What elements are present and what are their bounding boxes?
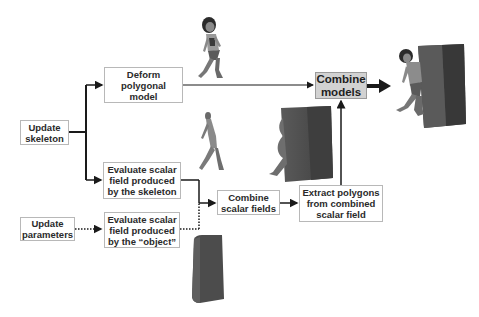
- update-parameters-node: Update parameters: [20, 217, 75, 241]
- skeleton-figure-image: [195, 112, 225, 174]
- eval-object-field-node: Evaluate scalar field produced by the “o…: [104, 212, 180, 248]
- extract-polygons-label: Extract polygons from combined scalar fi…: [302, 187, 379, 220]
- combine-scalar-fields-label: Combine scalar fields: [221, 192, 276, 214]
- deformed-block-image: [267, 102, 339, 184]
- eval-skeleton-field-label: Evaluate scalar field produced by the sk…: [107, 164, 176, 197]
- result-character-block-image: [392, 38, 472, 130]
- walking-character-image: [195, 16, 231, 82]
- deform-model-node: Deform polygonal model: [104, 67, 183, 103]
- deform-model-label: Deform polygonal model: [121, 69, 166, 102]
- extract-polygons-node: Extract polygons from combined scalar fi…: [299, 185, 383, 222]
- update-parameters-label: Update parameters: [22, 218, 73, 240]
- combine-models-label: Combine models: [316, 73, 365, 99]
- object-block-image: [188, 233, 228, 305]
- eval-object-field-label: Evaluate scalar field produced by the “o…: [107, 214, 176, 247]
- combine-models-node: Combine models: [315, 72, 367, 99]
- update-skeleton-label: Update skeleton: [25, 122, 64, 144]
- eval-skeleton-field-node: Evaluate scalar field produced by the sk…: [103, 162, 181, 199]
- pipeline-diagram: Update skeleton Deform polygonal model C…: [0, 0, 479, 317]
- combine-scalar-fields-node: Combine scalar fields: [217, 190, 280, 215]
- update-skeleton-node: Update skeleton: [20, 120, 69, 145]
